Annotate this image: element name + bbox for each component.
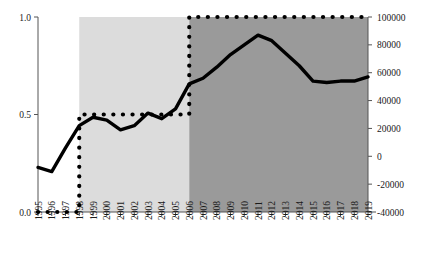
- x-axis-tick-label: 2001: [116, 201, 126, 220]
- left-axis-tick-label: 0.5: [19, 110, 31, 120]
- x-axis-tick-label: 2007: [199, 201, 209, 220]
- right-axis-tick-label: -20000: [377, 180, 404, 190]
- x-axis-tick-label: 2012: [267, 201, 277, 220]
- line-chart: 0.00.51.0-40000-200000200004000060000800…: [0, 0, 442, 257]
- left-axis-tick-label: 1.0: [19, 13, 31, 23]
- x-axis-tick-label: 2002: [130, 201, 140, 220]
- x-axis-tick-label: 2014: [295, 201, 305, 220]
- x-axis-tick-label: 2011: [254, 201, 264, 220]
- right-axis-tick-label: -40000: [377, 208, 404, 218]
- x-axis-tick-label: 1999: [89, 201, 99, 220]
- x-axis-tick-label: 2016: [322, 201, 332, 220]
- x-axis-tick-label: 2000: [102, 201, 112, 220]
- right-axis-tick-label: 80000: [377, 40, 401, 50]
- x-axis-tick-label: 2010: [240, 201, 250, 220]
- x-axis-tick-label: 2018: [350, 201, 360, 220]
- x-axis-tick-label: 2003: [144, 201, 154, 220]
- right-axis-tick-label: 100000: [377, 13, 406, 23]
- right-axis-tick-label: 60000: [377, 68, 401, 78]
- x-axis-tick-label: 2013: [281, 201, 291, 220]
- right-axis-tick-label: 20000: [377, 124, 401, 134]
- x-axis-tick-label: 2005: [171, 201, 181, 220]
- right-axis-tick-label: 40000: [377, 96, 401, 106]
- x-axis-tick-label: 2009: [226, 201, 236, 220]
- chart-container: 0.00.51.0-40000-200000200004000060000800…: [0, 0, 442, 257]
- x-axis-tick-label: 2006: [185, 201, 195, 220]
- x-axis-tick-label: 2019: [364, 201, 374, 220]
- x-axis-tick-label: 2004: [157, 201, 167, 220]
- x-axis-tick-label: 2017: [336, 201, 346, 220]
- x-axis-tick-label: 2008: [212, 201, 222, 220]
- left-axis-tick-label: 0.0: [19, 208, 31, 218]
- right-axis-tick-label: 0: [377, 152, 382, 162]
- x-axis-tick-label: 2015: [309, 201, 319, 220]
